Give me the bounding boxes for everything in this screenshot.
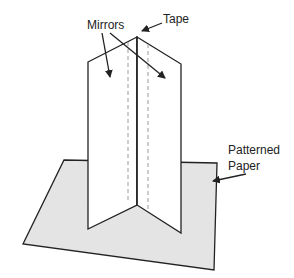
mirrors-label: Mirrors <box>87 18 124 32</box>
paper-label: Paper <box>228 159 260 173</box>
tape-arrow <box>142 23 162 31</box>
left-mirror <box>88 37 137 229</box>
tape-label: Tape <box>163 12 189 26</box>
patterned-label: Patterned <box>228 143 280 157</box>
right-mirror <box>137 37 181 233</box>
paper-arrow <box>213 174 246 181</box>
mirror-kaleidoscope-diagram: Mirrors Tape Patterned Paper <box>0 0 294 278</box>
